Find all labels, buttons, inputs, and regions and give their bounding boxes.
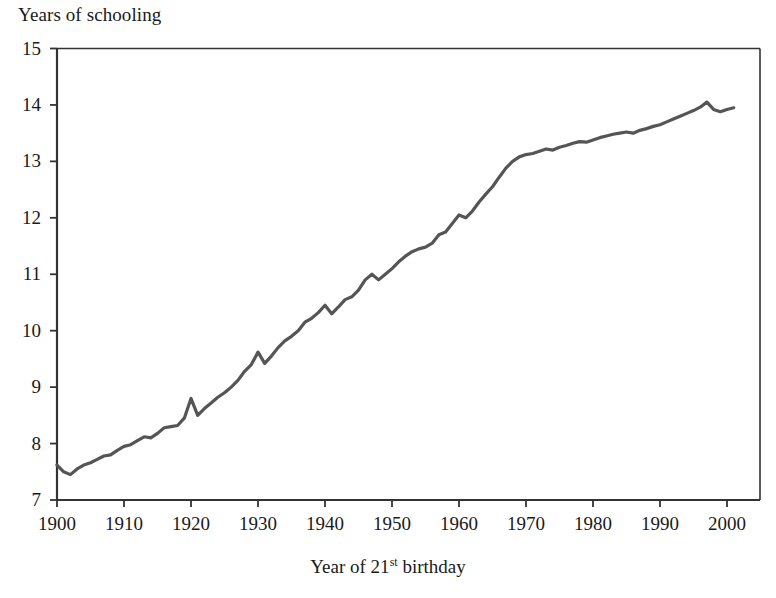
axis-lines bbox=[57, 49, 760, 501]
plot-area bbox=[0, 0, 776, 598]
chart-figure: Years of schooling Year of 21st birthday… bbox=[0, 0, 776, 598]
data-series-line bbox=[57, 102, 734, 474]
